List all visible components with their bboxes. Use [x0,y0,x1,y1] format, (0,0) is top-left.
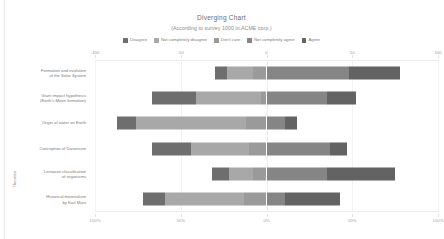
legend-item[interactable]: Not completely agree [247,38,294,43]
axis-tick-mark [267,214,268,217]
bar-segment[interactable] [212,168,229,181]
bar-segment[interactable] [349,66,400,79]
legend-item-label: Don't care [221,38,240,42]
bar-segment[interactable] [285,193,340,206]
gridline [438,60,439,212]
category-label: Formation and evolutionof the Solar Syst… [8,67,86,78]
axis-tick-mark [181,214,182,217]
axis-tick-mark [267,55,268,58]
gridline [352,60,353,212]
category-label-line: Conception of Darwinism [8,146,86,151]
legend-item-label: Disagree [130,38,147,42]
legend-swatch-icon [123,38,128,43]
bar-segment[interactable] [229,168,253,181]
bar-row[interactable] [95,92,438,105]
bar-segment[interactable] [267,142,330,155]
bar-segment[interactable] [244,193,266,206]
bar-row[interactable] [95,66,438,79]
bar-segment[interactable] [267,66,349,79]
bar-segment[interactable] [253,168,267,181]
bar-segment[interactable] [165,193,244,206]
category-label: Conception of Darwinism [8,146,86,151]
axis-tick-label: 0% [263,218,269,223]
bar-segment[interactable] [227,66,253,79]
bar-segment[interactable] [143,193,165,206]
bar-segment[interactable] [152,92,197,105]
bar-row[interactable] [95,168,438,181]
top-axis: -100-50050100 [95,50,438,59]
legend-item-label: Not completely disagree [161,38,207,42]
bar-segment[interactable] [253,66,267,79]
bar-segment[interactable] [215,66,227,79]
category-label: Giant impact hypothesis(Earth's Moon for… [8,93,86,104]
legend-item[interactable]: Disagree [123,38,147,43]
legend-item-label: Not completely agree [254,38,295,42]
bar-segment[interactable] [327,92,356,105]
bar-segment[interactable] [327,168,396,181]
bar-segment[interactable] [267,117,286,130]
legend-swatch-icon [247,38,252,43]
category-label-line: (Earth's Moon formation) [8,98,86,103]
axis-tick-mark [438,214,439,217]
bar-segment[interactable] [330,142,347,155]
axis-tick-mark [438,55,439,58]
category-label: Linnaean classificationof organisms [8,169,86,180]
axis-tick-mark [352,214,353,217]
category-label-line: of organisms [8,174,86,179]
bar-segment[interactable] [136,117,246,130]
bar-segment[interactable] [191,142,249,155]
plot-area [95,60,438,212]
bar-segment[interactable] [152,142,191,155]
bottom-axis: 100%50%0%50%100% [95,214,438,224]
axis-tick-mark [95,55,96,58]
axis-tick-label: 100% [433,218,444,223]
category-label: Historical materialismby Karl Marx [8,194,86,205]
bar-segment[interactable] [267,92,327,105]
axis-tick-mark [95,214,96,217]
gridline [95,60,96,212]
bar-segment[interactable] [267,193,286,206]
category-label: Origin of water on Earth [8,121,86,126]
chart-legend: DisagreeNot completely disagreeDon't car… [0,38,443,43]
axis-tick-label: 50% [348,218,357,223]
axis-tick-label: 50% [176,218,185,223]
chart-subtitle: (According to survey 1000 in ACME corp.) [0,25,443,31]
bar-segment[interactable] [267,168,327,181]
legend-item[interactable]: Don't care [214,38,240,43]
category-label-line: by Karl Marx [8,199,86,204]
category-axis-labels: Theories Formation and evolutionof the S… [0,60,95,212]
bar-segment[interactable] [117,117,136,130]
bar-segment[interactable] [196,92,261,105]
bar-row[interactable] [95,193,438,206]
chart-title: Diverging Chart [0,14,443,21]
legend-swatch-icon [154,38,159,43]
bar-row[interactable] [95,142,438,155]
bar-segment[interactable] [249,142,266,155]
legend-item[interactable]: Not completely disagree [154,38,207,43]
legend-swatch-icon [214,38,219,43]
bar-row[interactable] [95,117,438,130]
category-label-line: of the Solar System [8,73,86,78]
legend-item[interactable]: Agree [302,38,320,43]
legend-swatch-icon [302,38,307,43]
axis-tick-mark [352,55,353,58]
bar-segment[interactable] [246,117,267,130]
gridline [181,60,182,212]
bar-segment[interactable] [285,117,297,130]
category-label-line: Origin of water on Earth [8,121,86,126]
legend-item-label: Agree [308,38,319,42]
axis-tick-mark [181,55,182,58]
zero-line [267,60,268,212]
axis-tick-label: 100% [90,218,101,223]
